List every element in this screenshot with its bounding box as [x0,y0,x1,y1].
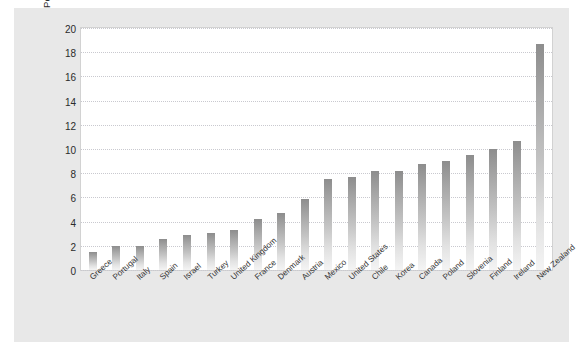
y-axis-tick-label: 4 [70,217,76,228]
y-axis-tick-label: 16 [65,72,76,83]
chart-figure: Per 100 000 Youth Aged 15 to 19 Years 02… [14,8,569,342]
bar [348,177,356,270]
x-axis-tick-labels: GreecePortugalItalySpainIsraelTurkeyUnit… [80,273,553,353]
y-axis-tick-label: 0 [70,266,76,277]
y-axis-tick-label: 18 [65,48,76,59]
y-axis-tick-label: 12 [65,120,76,131]
bar [207,233,215,271]
bar [324,179,332,270]
bar [183,235,191,270]
bar [277,213,285,270]
y-axis-tick-label: 10 [65,145,76,156]
y-axis-tick-label: 20 [65,24,76,35]
y-axis-title-text: Per 100 000 Youth Aged 15 to 19 Years [41,0,52,41]
bar [536,44,544,270]
bar [489,149,497,270]
bar [513,141,521,270]
bar [418,164,426,270]
bar [230,230,238,270]
bar [395,171,403,270]
bar [466,155,474,270]
y-axis-tick-label: 14 [65,96,76,107]
y-axis-tick-label: 8 [70,169,76,180]
bar-series [81,28,552,270]
y-axis-title: Per 100 000 Youth Aged 15 to 19 Years [36,0,52,41]
bar [159,239,167,270]
y-axis-tick-label: 2 [70,241,76,252]
plot-area: 02468101214161820 [80,27,553,271]
y-axis-tick-label: 6 [70,193,76,204]
bar [442,161,450,270]
